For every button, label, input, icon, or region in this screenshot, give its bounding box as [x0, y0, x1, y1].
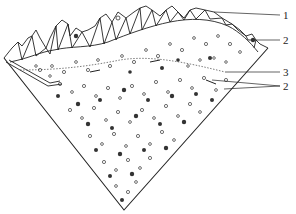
jagged-surface-layer: [4, 6, 268, 86]
label-2-top: 2: [283, 35, 289, 46]
elongated-particles: [90, 60, 216, 84]
leader-1: [214, 12, 280, 15]
label-3: 3: [283, 67, 289, 78]
label-2-bottom: 2: [283, 81, 289, 92]
leader-2-bottom-a: [212, 80, 280, 86]
sector-cross-section-diagram: [0, 0, 296, 214]
label-1: 1: [283, 10, 289, 21]
